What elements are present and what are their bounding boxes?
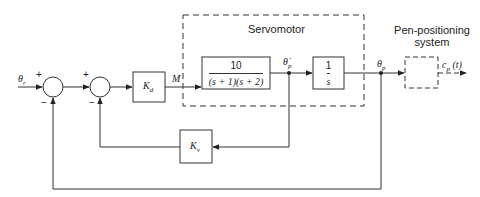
plant-denominator: (s + 1)(s + 2) xyxy=(209,73,264,87)
sum2-minus-sign: − xyxy=(89,98,95,108)
servomotor-title: Servomotor xyxy=(248,24,305,35)
theta-p-label: θp xyxy=(377,59,385,72)
integrator-transfer-function: 1 s xyxy=(313,57,344,89)
summing-junction-2 xyxy=(90,77,110,97)
sum1-minus-sign: − xyxy=(41,98,47,108)
input-label: θr xyxy=(18,74,26,87)
pen-positioning-title-line2: system xyxy=(392,37,472,48)
sum2-plus-sign: + xyxy=(83,70,89,80)
summing-junction-1 xyxy=(43,77,63,97)
output-label: cp (t) xyxy=(442,60,462,73)
integrator-numerator: 1 xyxy=(326,60,332,73)
integrator-denominator: s xyxy=(327,73,331,87)
kd-label: Kd xyxy=(143,81,153,94)
signal-m-label: M xyxy=(172,74,180,84)
plant-transfer-function: 10 (s + 1)(s + 2) xyxy=(202,57,270,89)
theta-dot-label: θ̇p xyxy=(283,57,291,70)
sum1-plus-sign: + xyxy=(36,70,42,80)
plant-numerator: 10 xyxy=(230,60,241,73)
pen-positioning-block xyxy=(405,57,438,88)
branch-point-theta-dot xyxy=(287,71,291,75)
kv-label: Kv xyxy=(190,141,200,154)
pen-positioning-title-line1: Pen-positioning xyxy=(392,25,472,36)
